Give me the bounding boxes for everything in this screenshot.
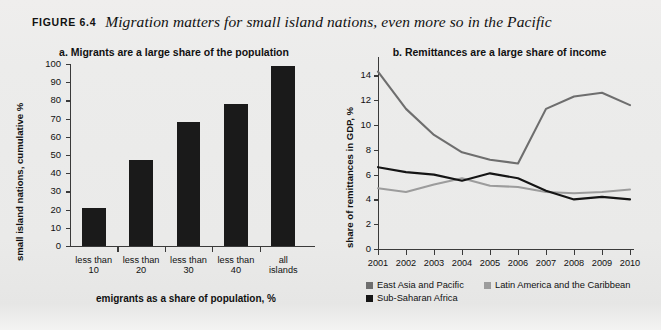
legend-label: East Asia and Pacific	[377, 280, 464, 290]
panel-a-y-tick-label: 80	[28, 95, 61, 105]
panel-b-y-tick-label: 2	[348, 219, 371, 229]
panel-b-x-tick	[378, 250, 379, 255]
panel-b-y-tick-label: 8	[348, 145, 371, 155]
panel-a-y-tick	[66, 64, 71, 65]
panel-a-plot-area: 0102030405060708090100less than10less th…	[70, 64, 307, 246]
panel-a-y-tick	[66, 119, 71, 120]
bar	[271, 66, 295, 246]
panel-b-x-tick	[490, 250, 491, 255]
series-line	[378, 72, 630, 164]
panel-a-y-tick	[66, 100, 71, 101]
panel-a-y-tick	[66, 246, 71, 247]
panel-a-x-axis	[70, 246, 315, 247]
panel-a-x-tick	[165, 247, 166, 252]
panel-a-category-label: less than20	[117, 255, 164, 276]
panel-b-x-tick	[406, 250, 407, 255]
bar	[177, 122, 201, 246]
panel-b-title: b. Remittances are a large share of inco…	[330, 46, 661, 58]
series-line	[378, 178, 630, 193]
panel-b-y-tick-label: 14	[348, 70, 371, 80]
bar	[82, 208, 106, 246]
bar	[224, 104, 248, 246]
panel-b-x-tick	[574, 250, 575, 255]
panel-a-category-label: allislands	[260, 255, 307, 276]
panel-b-x-tick	[518, 250, 519, 255]
panel-a-x-tick	[212, 247, 213, 252]
panel-a-category-label: less than10	[70, 255, 117, 276]
legend-swatch-icon	[484, 282, 491, 289]
panel-a-y-tick-label: 100	[28, 59, 61, 69]
panel-b-x-tick	[602, 250, 603, 255]
legend-label: Sub-Saharan Africa	[377, 293, 458, 303]
figure-title: Migration matters for small island natio…	[105, 13, 552, 30]
panel-b-x-tick	[630, 250, 631, 255]
panel-b-x-tick	[546, 250, 547, 255]
bar	[129, 160, 153, 246]
panel-b-legend: East Asia and PacificLatin America and t…	[366, 280, 656, 310]
panel-a-x-tick	[117, 247, 118, 252]
legend-swatch-icon	[366, 282, 373, 289]
panel-b-x-tick	[462, 250, 463, 255]
panel-a-category-label: less than40	[212, 255, 259, 276]
panel-a-y-tick-label: 20	[28, 205, 61, 215]
legend-label: Latin America and the Caribbean	[495, 280, 630, 290]
panel-a-y-tick	[66, 155, 71, 156]
panel-a-y-tick-label: 90	[28, 77, 61, 87]
source-note-cutoff	[16, 324, 653, 330]
panel-a-x-axis-label: emigrants as a share of population, %	[46, 293, 326, 304]
panel-a-y-tick-label: 40	[28, 168, 61, 178]
panel-a-y-tick-label: 0	[28, 241, 61, 251]
panel-a-y-tick-label: 50	[28, 150, 61, 160]
panel-a-y-tick	[66, 173, 71, 174]
panel-b-x-tick	[434, 250, 435, 255]
panel-b-y-tick-label: 0	[348, 244, 371, 254]
panel-b-x-axis	[378, 249, 634, 250]
panel-a-y-tick-label: 10	[28, 223, 61, 233]
panel-b-remittances-share: b. Remittances are a large share of inco…	[330, 46, 661, 316]
panel-a-y-tick	[66, 191, 71, 192]
panel-b-plot-area: 0246810121420012002200320042005200620072…	[378, 63, 630, 249]
legend-item[interactable]: Latin America and the Caribbean	[484, 280, 630, 290]
figure-number: FIGURE 6.4	[32, 16, 96, 28]
legend-swatch-icon	[366, 295, 373, 302]
panel-a-y-tick-label: 30	[28, 186, 61, 196]
panel-a-category-label: less than30	[165, 255, 212, 276]
panel-a-y-axis-label: small island nations, cumulative %	[14, 103, 25, 261]
panel-b-y-tick-label: 12	[348, 95, 371, 105]
legend-item[interactable]: East Asia and Pacific	[366, 280, 464, 290]
panel-a-y-tick	[66, 228, 71, 229]
panel-b-y-tick-label: 6	[348, 170, 371, 180]
figure-header: FIGURE 6.4Migration matters for small is…	[32, 12, 641, 32]
panel-a-y-tick	[66, 137, 71, 138]
panel-a-y-tick-label: 70	[28, 114, 61, 124]
panel-a-y-tick	[66, 82, 71, 83]
panel-a-y-tick	[66, 210, 71, 211]
panel-b-y-tick-label: 10	[348, 120, 371, 130]
legend-item[interactable]: Sub-Saharan Africa	[366, 293, 458, 303]
panel-a-migrants-share: a. Migrants are a large share of the pop…	[0, 46, 330, 316]
series-line	[378, 167, 630, 199]
panel-b-series-lines	[378, 63, 634, 249]
panel-a-title: a. Migrants are a large share of the pop…	[0, 46, 330, 58]
panel-b-y-tick-label: 4	[348, 194, 371, 204]
panel-b-x-tick-label: 2010	[614, 258, 646, 268]
panel-a-y-tick-label: 60	[28, 132, 61, 142]
panel-a-x-tick	[260, 247, 261, 252]
